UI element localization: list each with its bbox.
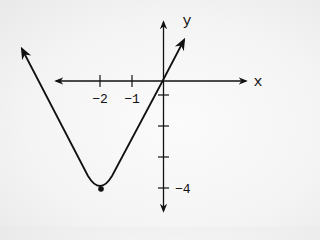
- function-graph: −2 −1 −4 x y: [0, 0, 277, 227]
- y-axis-label: y: [182, 13, 191, 30]
- vertex-point: [98, 186, 104, 192]
- x-axis-label: x: [253, 74, 262, 91]
- x-tick-label-neg2: −2: [92, 92, 108, 107]
- function-curve: [22, 40, 184, 186]
- x-tick-label-neg1: −1: [124, 92, 140, 107]
- y-tick-label-neg4: −4: [175, 182, 191, 197]
